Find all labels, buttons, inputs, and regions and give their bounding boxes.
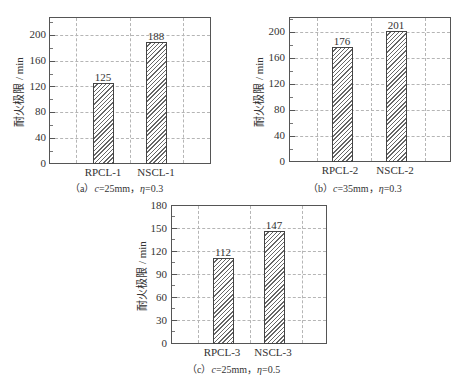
tick [172,216,175,217]
tick [50,74,53,75]
gridline [290,58,450,59]
tick [172,251,177,252]
bar-value-label: 201 [376,19,416,31]
bar-nscl-2 [386,31,407,162]
y-tick-a-0: 0 [20,157,46,169]
tick [50,86,55,87]
tick [50,125,53,126]
bar-value-label: 176 [322,35,362,47]
tick [50,99,53,100]
tick [290,149,293,150]
tick [172,262,175,263]
caption-c: （c）c=25mm，η=0.5 [187,361,280,376]
gridline [302,206,303,343]
tick [50,48,53,49]
tick [50,61,55,62]
tick [290,123,293,124]
gridline [371,18,372,161]
tick [290,97,293,98]
x-tick-label: NSCL-1 [126,166,186,178]
y-tick-c-150: 150 [141,222,167,234]
y-tick-b-40: 40 [259,129,285,141]
gridline [183,18,184,163]
caption-a: （a）c=25mm，η=0.3 [70,180,163,195]
gridline [290,32,450,33]
y-tick-a-160: 160 [20,54,46,66]
tick [50,112,55,113]
gridline [290,110,450,111]
tick [50,151,53,152]
gridline [425,18,426,161]
y-tick-b-80: 80 [259,103,285,115]
tick [50,22,53,23]
tick [290,45,293,46]
tick [290,110,295,111]
plot-area-a: 125 188 [49,17,211,164]
y-tick-a-80: 80 [20,105,46,117]
bar-nscl-1 [146,42,167,164]
y-tick-c-60: 60 [141,291,167,303]
tick [172,228,177,229]
y-tick-b-120: 120 [259,77,285,89]
plot-area-b: 176 201 [289,17,451,162]
y-tick-c-0: 0 [141,337,167,349]
y-tick-a-120: 120 [20,80,46,92]
x-tick-label: RPCL-2 [310,164,370,176]
x-tick-label: NSCL-3 [243,346,303,358]
gridline [250,206,251,343]
y-tick-c-180: 180 [141,199,167,211]
tick [172,285,175,286]
plot-area-c: 112 147 [171,205,327,344]
y-tick-b-0: 0 [259,155,285,167]
bar-value-label: 112 [203,246,243,258]
y-axis-label-b: 耐火极限 / min [250,52,266,132]
bar-rpcl-3 [213,258,234,344]
bar-value-label: 188 [136,30,176,42]
gridline [290,136,450,137]
tick [290,136,295,137]
tick [172,274,177,275]
x-tick-label: NSCL-2 [365,164,425,176]
gridline [317,18,318,161]
bar-rpcl-2 [332,47,353,162]
tick [50,138,55,139]
x-tick-label: RPCL-1 [73,166,133,178]
tick [50,35,55,36]
tick [290,32,295,33]
bar-rpcl-1 [93,83,114,164]
gridline [290,84,450,85]
gridline [130,18,131,163]
tick [290,19,293,20]
bar-value-label: 125 [83,71,123,83]
tick [290,84,295,85]
bar-nscl-3 [264,231,285,344]
caption-b: （b）c=35mm，η=0.3 [308,180,402,195]
y-tick-a-40: 40 [20,131,46,143]
gridline [76,18,77,163]
tick [172,308,175,309]
gridline [198,206,199,343]
y-tick-b-160: 160 [259,51,285,63]
y-tick-b-200: 200 [259,25,285,37]
tick [172,297,177,298]
y-tick-c-120: 120 [141,245,167,257]
tick [290,58,295,59]
tick [172,331,175,332]
tick [290,71,293,72]
tick [172,239,175,240]
tick [172,320,177,321]
y-tick-a-200: 200 [20,28,46,40]
y-tick-c-30: 30 [141,314,167,326]
bar-value-label: 147 [254,219,294,231]
y-tick-c-90: 90 [141,268,167,280]
